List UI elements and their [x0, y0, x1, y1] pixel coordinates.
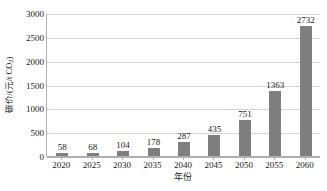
bar [300, 26, 312, 156]
bar-group: 58 [47, 14, 77, 156]
bar-value-label: 68 [88, 142, 97, 152]
x-axis-tick-label: 2025 [83, 160, 101, 170]
bar [208, 135, 220, 156]
x-axis-tick-label: 2045 [204, 160, 222, 170]
bar [269, 91, 281, 156]
y-axis-tick-label: 500 [14, 129, 44, 138]
x-axis-title: 年份 [46, 172, 320, 183]
bar-chart: 碳价/(元/t CO2) 050010001500200025003000 58… [0, 0, 327, 191]
y-axis-tick-label: 3000 [14, 10, 44, 19]
bar [148, 148, 160, 156]
y-axis-tick-label: 2500 [14, 33, 44, 42]
bar-group: 751 [230, 14, 260, 156]
bar [178, 142, 190, 156]
bar-group: 1363 [260, 14, 290, 156]
x-axis-tick-label: 2050 [235, 160, 253, 170]
bar-group: 178 [138, 14, 168, 156]
bar-value-label: 58 [58, 142, 67, 152]
x-axis-tick-label: 2060 [296, 160, 314, 170]
bar-group: 435 [199, 14, 229, 156]
bar-value-label: 104 [116, 140, 130, 150]
bar-value-label: 2732 [297, 15, 315, 25]
bar [239, 120, 251, 156]
y-axis-tick-label: 1000 [14, 105, 44, 114]
bar [87, 153, 99, 156]
y-axis-tick-label: 2000 [14, 57, 44, 66]
bar-group: 287 [169, 14, 199, 156]
bar-value-label: 435 [208, 124, 222, 134]
bar-value-label: 751 [238, 109, 252, 119]
plot-area: 586810417828743575113632732 [46, 14, 320, 157]
x-axis-tick-labels: 202020252030203520402045205020552060 [46, 157, 320, 171]
x-axis-tick-label: 2055 [265, 160, 283, 170]
x-axis-tick-label: 2035 [144, 160, 162, 170]
bar-group: 104 [108, 14, 138, 156]
bar [117, 151, 129, 156]
x-axis-tick-label: 2040 [174, 160, 192, 170]
y-axis-title-main: 碳价/(元/t CO [4, 63, 14, 114]
y-axis-tick-labels: 050010001500200025003000 [14, 14, 44, 157]
bar-value-label: 287 [177, 131, 191, 141]
bar-group: 68 [77, 14, 107, 156]
x-axis-tick-label: 2020 [52, 160, 70, 170]
y-axis-tick-label: 0 [14, 153, 44, 162]
bar-value-label: 1363 [266, 80, 284, 90]
x-axis-tick-label: 2030 [113, 160, 131, 170]
bar [56, 153, 68, 156]
y-axis-title-tail: ) [4, 57, 14, 60]
bars-layer: 586810417828743575113632732 [47, 14, 320, 156]
bar-group: 2732 [291, 14, 321, 156]
y-axis-tick-label: 1500 [14, 81, 44, 90]
bar-value-label: 178 [147, 137, 161, 147]
